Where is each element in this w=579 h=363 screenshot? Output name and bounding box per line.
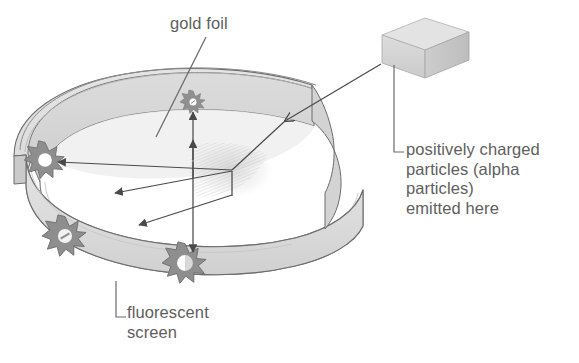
ring-left-cut-face bbox=[14, 155, 26, 184]
alpha-source-label: positively charged particles (alpha part… bbox=[406, 140, 540, 218]
alpha-particle-source-box bbox=[382, 18, 469, 78]
ring-right-cut-face bbox=[312, 85, 341, 229]
screen-leader bbox=[116, 281, 126, 317]
scattered-beam-lower-left-2 bbox=[139, 195, 232, 225]
fluorescent-screen-label: fluorescent screen bbox=[127, 303, 209, 342]
gold-foil-label: gold foil bbox=[170, 14, 228, 34]
source-leader bbox=[394, 65, 404, 152]
diagram-canvas: gold foil positively charged particles (… bbox=[0, 0, 579, 363]
